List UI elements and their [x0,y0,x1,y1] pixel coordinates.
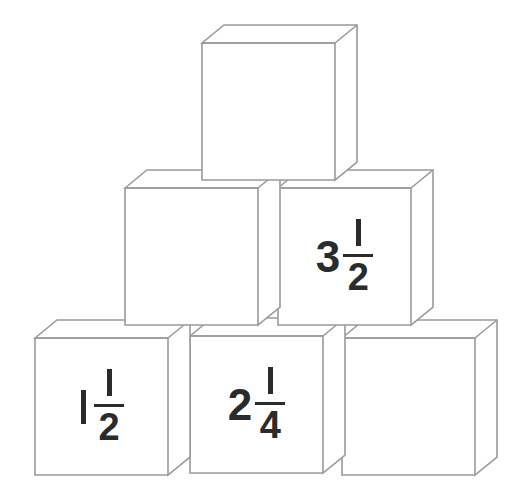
digit-one-stroke-icon [81,390,86,424]
fraction-one-quarter: 4 [255,367,285,444]
cube-diagram: 3 2 2 2 4 [0,0,531,498]
denominator-4: 4 [256,405,285,444]
numerator-1 [103,369,116,404]
label-middle-right-cube: 3 2 [278,188,411,325]
bottom-right-cube [342,320,497,475]
whole-number-2: 2 [228,383,252,427]
digit-one-stroke-icon [268,367,273,394]
numerator-1 [352,219,365,254]
digit-one-stroke-icon [107,369,112,396]
label-bottom-left-cube: 2 [35,338,168,475]
label-bottom-middle-cube: 2 4 [190,336,323,473]
numerator-1 [264,367,277,402]
whole-number-1 [79,385,91,429]
whole-number-3: 3 [316,235,340,279]
digit-one-stroke-icon [356,219,361,246]
denominator-2: 2 [344,257,373,296]
fraction-one-half: 2 [343,219,373,296]
denominator-2: 2 [94,407,123,446]
top-cube [202,25,357,180]
fraction-one-half: 2 [94,369,124,446]
middle-left-cube [125,170,280,325]
